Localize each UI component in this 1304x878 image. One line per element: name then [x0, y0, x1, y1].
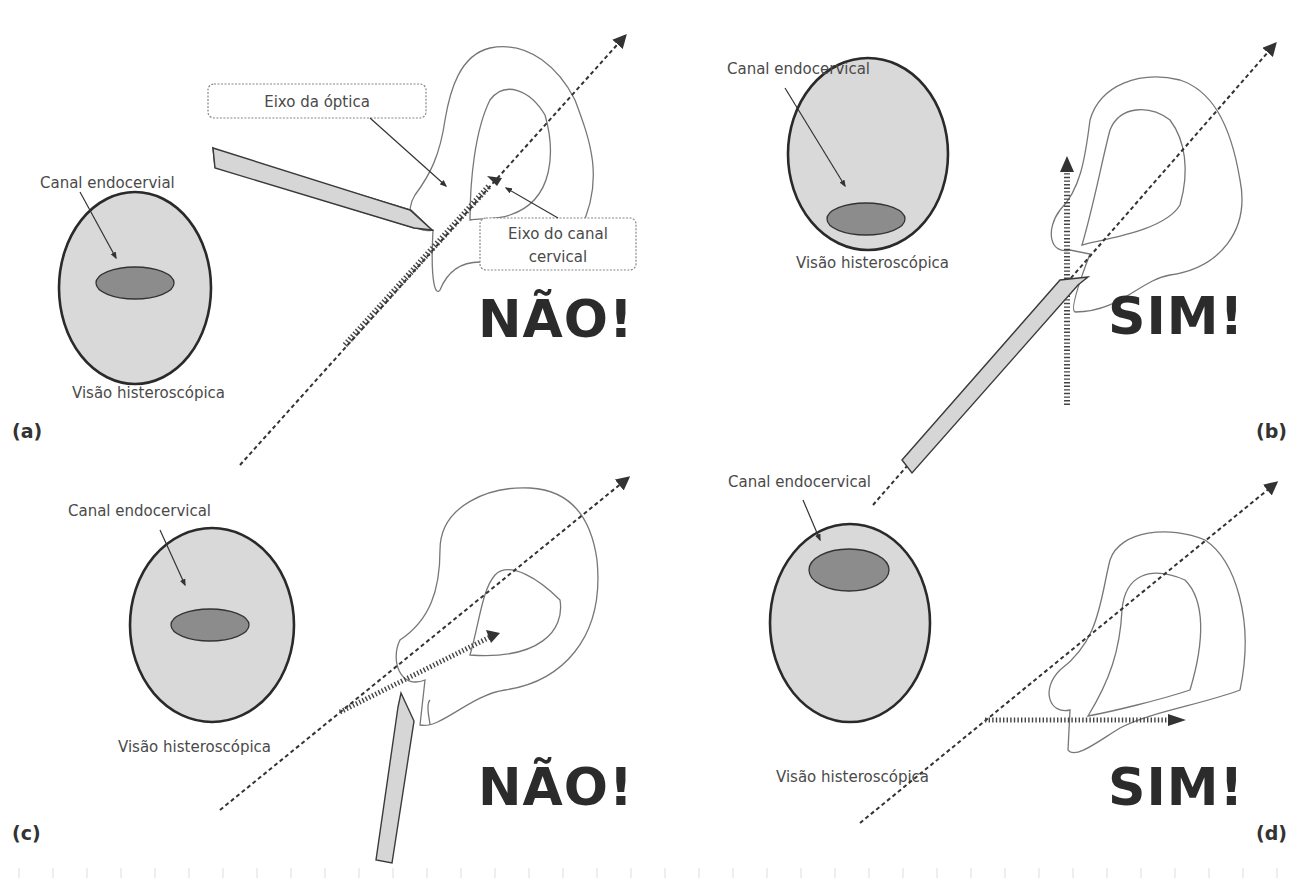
panel-letter-c: (c) — [12, 822, 41, 844]
hysteroscopic-view-c — [130, 528, 294, 722]
endocervical-canal-d — [809, 549, 889, 591]
panel-d: Canal endocervical Visão histeroscópica … — [728, 473, 1287, 844]
figure-caption-cropped — [0, 868, 1304, 878]
panel-b: Canal endocervical Visão histeroscópica … — [727, 44, 1287, 505]
view-label-d: Visão histeroscópica — [776, 768, 929, 786]
verdict-b: SIM! — [1108, 286, 1244, 346]
panel-letter-a: (a) — [12, 420, 42, 442]
hysteroscope-c — [376, 693, 414, 863]
verdict-a: NÃO! — [478, 289, 634, 349]
endocervical-canal-a — [96, 267, 174, 299]
canal-label-c: Canal endocervical — [68, 502, 211, 520]
callout-cervical-axis: Eixo do canal cervical — [480, 188, 636, 270]
panel-c: Canal endocervical Visão histeroscópica … — [12, 478, 634, 863]
uterus-outline-c — [396, 488, 598, 726]
canal-label-b: Canal endocervical — [727, 60, 870, 78]
panel-a: Canal endocervial Visão histeroscópica E… — [12, 36, 636, 465]
panel-letter-d: (d) — [1256, 822, 1287, 844]
endocervical-canal-c — [171, 609, 249, 641]
optic-axis-line-c — [340, 637, 490, 712]
verdict-d: SIM! — [1108, 757, 1244, 817]
svg-text:Eixo do canal: Eixo do canal — [508, 225, 608, 243]
uterus-outline-b — [1051, 77, 1242, 312]
svg-text:cervical: cervical — [529, 248, 587, 266]
svg-text:Eixo da óptica: Eixo da óptica — [264, 93, 370, 111]
canal-label-a: Canal endocervial — [40, 174, 175, 192]
panel-letter-b: (b) — [1256, 420, 1287, 442]
endocervical-canal-b — [827, 203, 905, 235]
view-label-c: Visão histeroscópica — [118, 738, 271, 756]
hysteroscopic-view-d — [770, 500, 930, 722]
hysteroscope-b — [902, 277, 1088, 473]
hysteroscopic-view-a — [59, 192, 211, 384]
verdict-c: NÃO! — [478, 757, 634, 817]
hysteroscopic-view-b — [785, 58, 948, 250]
canal-label-d: Canal endocervical — [728, 473, 871, 491]
view-label-b: Visão histeroscópica — [796, 254, 949, 272]
hysteroscopy-diagram: Canal endocervial Visão histeroscópica E… — [0, 0, 1304, 878]
view-label-a: Visão histeroscópica — [72, 384, 225, 402]
